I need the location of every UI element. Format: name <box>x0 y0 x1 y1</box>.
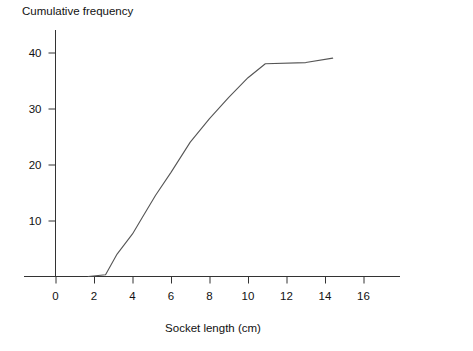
x-tick-label-8: 8 <box>206 290 212 302</box>
x-tick-label-10: 10 <box>242 290 255 302</box>
chart-title-group: Cumulative frequency <box>22 5 133 17</box>
x-axis-label: Socket length (cm) <box>165 322 261 334</box>
x-axis-label-group: Socket length (cm) <box>165 322 261 334</box>
y-axis-ticks <box>49 53 56 221</box>
x-tick-label-0: 0 <box>52 290 58 302</box>
x-axis-ticks <box>56 277 364 284</box>
x-tick-label-2: 2 <box>91 290 97 302</box>
x-tick-label-4: 4 <box>129 290 136 302</box>
cumulative-frequency-chart: Cumulative frequency 10203040 0246810121… <box>0 0 473 351</box>
x-tick-label-14: 14 <box>319 290 332 302</box>
cumulative-frequency-curve <box>88 58 332 276</box>
y-tick-label-30: 30 <box>29 103 42 115</box>
y-tick-label-10: 10 <box>29 215 42 227</box>
chart-title: Cumulative frequency <box>22 5 133 17</box>
x-tick-label-12: 12 <box>280 290 293 302</box>
x-tick-label-16: 16 <box>357 290 370 302</box>
chart-canvas: Cumulative frequency 10203040 0246810121… <box>0 0 473 351</box>
y-axis-tick-labels: 10203040 <box>29 47 42 227</box>
y-tick-label-20: 20 <box>29 159 42 171</box>
y-tick-label-40: 40 <box>29 47 42 59</box>
x-tick-label-6: 6 <box>168 290 174 302</box>
data-series-group <box>88 58 332 276</box>
axis-lines <box>24 30 400 277</box>
x-axis-tick-labels: 0246810121416 <box>52 290 370 302</box>
